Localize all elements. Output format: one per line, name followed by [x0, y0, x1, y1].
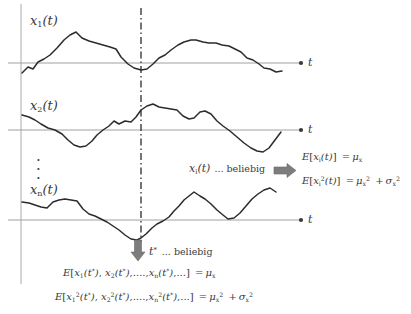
axis-label-t-n: t: [308, 214, 312, 225]
signal-label-xn-rest: (t): [43, 182, 58, 197]
caption-tstar-ellipsis: ...: [162, 246, 171, 257]
formula-ensemble-mean: E[x1(t*), x2(t*),....,xn(t*),...] =μx E[…: [63, 268, 215, 279]
signal-label-xn: xn(t): [30, 183, 58, 198]
signal-label-x1-rest: (t): [42, 13, 57, 28]
caption-tstar-word: beliebig: [174, 246, 213, 257]
waveform-x1: [22, 32, 282, 73]
caption-xi-beliebig: xi(t)...beliebig: [189, 163, 265, 176]
caption-tstar-beliebig: t*...beliebig: [149, 246, 213, 257]
caption-xi-ellipsis: ...: [214, 163, 223, 174]
vertical-ellipsis-dot-3: ·: [36, 176, 41, 180]
down-block-arrow-icon: [131, 240, 145, 261]
formula-mean-instant: E[xi(t)] =μx E[x_i(t)] = μ_x: [302, 152, 362, 163]
caption-xi-word: beliebig: [226, 163, 265, 174]
axis-label-t-2: t: [308, 124, 312, 135]
time-axis-n: [8, 218, 303, 222]
axis-label-t-1: t: [308, 57, 312, 68]
formula-second-moment-instant: E[xi2(t)] =μx2 +σx2 E[x_i²(t)] = μ_x² + …: [302, 176, 400, 187]
signal-label-x1: x1(t): [30, 14, 58, 29]
waveform-x2: [22, 104, 281, 152]
signal-label-x2: x2(t): [30, 99, 58, 114]
caption-tstar-sup: *: [153, 246, 156, 254]
stochastic-process-figure: x1(t) x2(t) xn(t) · · · t t t xi(t)...be…: [0, 0, 411, 314]
waveform-xn: [22, 188, 276, 240]
formula-ensemble-second-moment: E[x12(t*), x22(t*),....,xn2(t*),...] =μx…: [55, 292, 253, 303]
signal-label-x2-rest: (t): [42, 98, 57, 113]
right-block-arrow-icon: [274, 164, 296, 178]
caption-xi-rest: (t): [197, 162, 210, 175]
vertical-ellipsis: · · ·: [36, 158, 41, 180]
